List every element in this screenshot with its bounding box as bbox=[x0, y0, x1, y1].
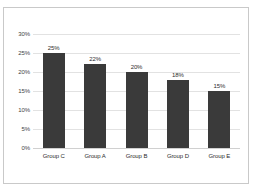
bar-group[interactable]: 22% bbox=[84, 34, 106, 148]
bar-value-label: 20% bbox=[117, 64, 157, 71]
y-tick-label: 5% bbox=[4, 126, 30, 133]
bar[interactable] bbox=[84, 64, 106, 148]
plot-area: 25%22%20%18%15% bbox=[33, 34, 240, 148]
x-tick-label: Group A bbox=[72, 152, 118, 160]
y-axis: 0%5%10%15%20%25%30% bbox=[0, 34, 30, 148]
x-tick-label: Group D bbox=[155, 152, 201, 160]
y-tick-label: 20% bbox=[4, 69, 30, 76]
x-tick-label: Group B bbox=[114, 152, 160, 160]
bar-value-label: 15% bbox=[199, 83, 239, 90]
chart-figure: 0%5%10%15%20%25%30% 25%22%20%18%15% Grou… bbox=[0, 0, 256, 191]
bar[interactable] bbox=[126, 72, 148, 148]
bar-group[interactable]: 25% bbox=[43, 34, 65, 148]
x-tick-label: Group C bbox=[31, 152, 77, 160]
y-tick-label: 30% bbox=[4, 31, 30, 38]
y-tick-label: 25% bbox=[4, 50, 30, 57]
x-axis: Group CGroup AGroup BGroup DGroup E bbox=[33, 150, 240, 164]
bar-group[interactable]: 18% bbox=[167, 34, 189, 148]
bar[interactable] bbox=[208, 91, 230, 148]
y-tick-label: 0% bbox=[4, 145, 30, 152]
y-tick-label: 15% bbox=[4, 88, 30, 95]
bar[interactable] bbox=[43, 53, 65, 148]
x-tick-label: Group E bbox=[196, 152, 242, 160]
bar-value-label: 22% bbox=[75, 56, 115, 63]
bar-group[interactable]: 15% bbox=[208, 34, 230, 148]
bar[interactable] bbox=[167, 80, 189, 148]
bar-group[interactable]: 20% bbox=[126, 34, 148, 148]
gridline bbox=[33, 148, 240, 149]
bar-value-label: 25% bbox=[34, 45, 74, 52]
bar-value-label: 18% bbox=[158, 72, 198, 79]
y-tick-label: 10% bbox=[4, 107, 30, 114]
